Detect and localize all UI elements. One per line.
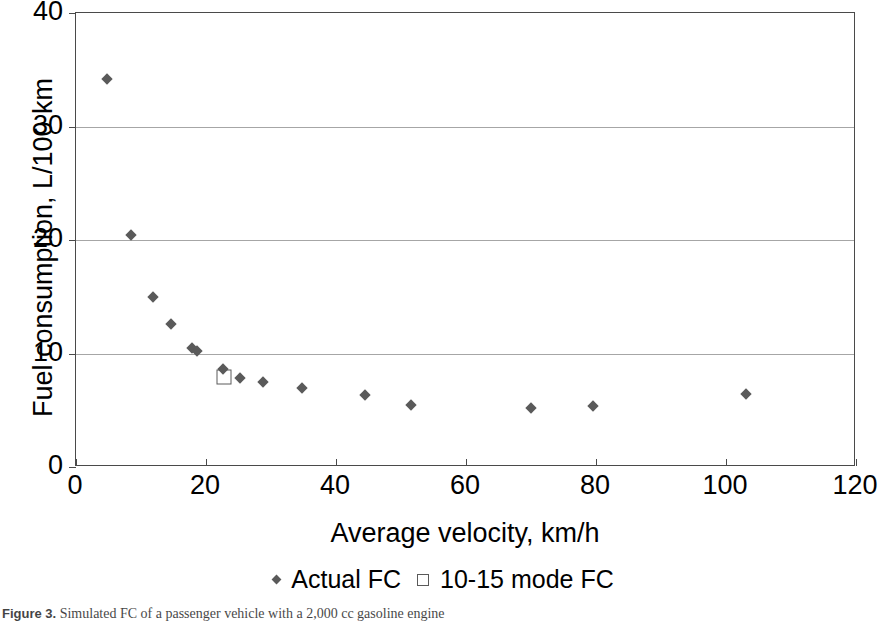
- x-tick-mark: [76, 459, 77, 466]
- x-tick-label: 0: [35, 472, 115, 499]
- gridline: [76, 127, 854, 128]
- data-point-diamond: [587, 400, 598, 411]
- legend-label-10-15-mode-fc: 10-15 mode FC: [440, 565, 614, 594]
- data-point-diamond: [297, 382, 308, 393]
- chart-legend: Actual FC 10-15 mode FC: [0, 565, 887, 594]
- data-point-diamond: [147, 291, 158, 302]
- data-point-square: [217, 370, 232, 385]
- gridline: [76, 354, 854, 355]
- legend-entry-10-15-mode-fc: 10-15 mode FC: [417, 565, 614, 594]
- x-axis-title: Average velocity, km/h: [75, 518, 855, 549]
- plot-area: [75, 12, 855, 466]
- x-tick-mark: [856, 459, 857, 466]
- x-tick-mark: [466, 459, 467, 466]
- x-tick-label: 80: [555, 472, 635, 499]
- x-tick-label: 100: [685, 472, 765, 499]
- data-point-diamond: [234, 373, 245, 384]
- figure-caption-label: Figure 3.: [2, 606, 56, 621]
- y-tick-label: 40: [3, 0, 63, 25]
- diamond-marker-icon: [272, 575, 282, 585]
- y-tick-label: 10: [3, 339, 63, 366]
- x-tick-label: 40: [295, 472, 375, 499]
- x-tick-label: 60: [425, 472, 505, 499]
- square-marker-icon: [417, 574, 429, 586]
- legend-entry-actual-fc: Actual FC: [273, 565, 401, 594]
- y-tick-mark: [69, 240, 76, 241]
- x-tick-mark: [336, 459, 337, 466]
- data-point-diamond: [740, 389, 751, 400]
- legend-label-actual-fc: Actual FC: [291, 565, 401, 594]
- x-tick-mark: [726, 459, 727, 466]
- y-tick-mark: [69, 13, 76, 14]
- x-tick-mark: [206, 459, 207, 466]
- x-tick-label: 20: [165, 472, 245, 499]
- y-tick-mark: [69, 354, 76, 355]
- x-tick-mark: [596, 459, 597, 466]
- data-point-diamond: [102, 73, 113, 84]
- gridline: [76, 240, 854, 241]
- data-point-diamond: [360, 390, 371, 401]
- y-tick-label: 20: [3, 225, 63, 252]
- data-point-diamond: [165, 318, 176, 329]
- y-tick-mark: [69, 467, 76, 468]
- y-tick-label: 30: [3, 112, 63, 139]
- data-point-diamond: [258, 376, 269, 387]
- data-point-diamond: [525, 402, 536, 413]
- y-tick-mark: [69, 127, 76, 128]
- figure-caption: Figure 3. Simulated FC of a passenger ve…: [2, 606, 882, 624]
- x-tick-label: 120: [815, 472, 887, 499]
- figure-caption-text: Simulated FC of a passenger vehicle with…: [60, 606, 445, 621]
- figure-container: Fuel consumption, L/100 km 010203040 020…: [0, 0, 887, 624]
- data-point-diamond: [405, 399, 416, 410]
